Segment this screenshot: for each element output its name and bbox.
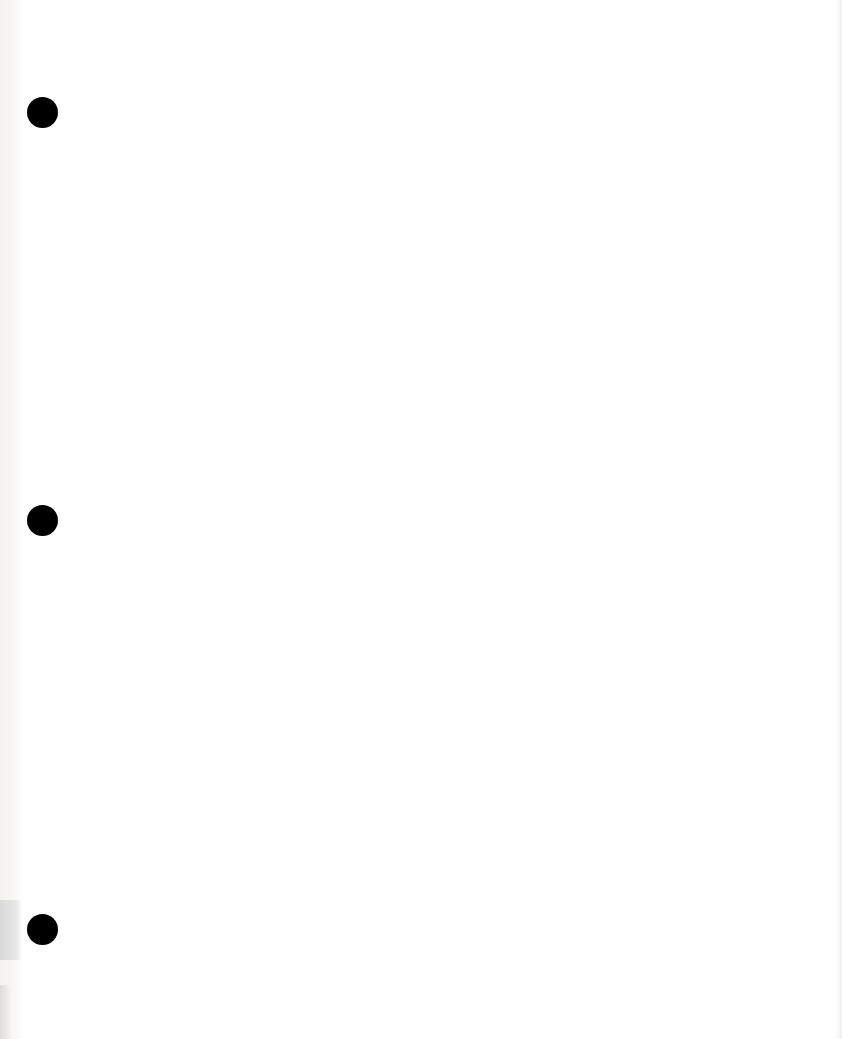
scan-shadow [0,900,22,960]
punch-hole-top [27,97,58,128]
punch-hole-bottom [27,914,58,945]
page-right-edge [836,0,842,1039]
punch-hole-middle [27,505,58,536]
blank-page [0,0,842,1039]
scan-shadow-lower [0,985,12,1039]
page-left-edge [0,0,22,1039]
